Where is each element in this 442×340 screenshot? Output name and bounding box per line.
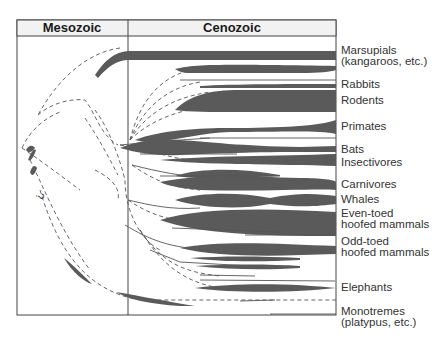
label-rabbits: Rabbits bbox=[341, 78, 380, 90]
label-carnivores: Carnivores bbox=[341, 178, 397, 190]
label-odd-toed-sub: hoofed mammals bbox=[341, 246, 429, 258]
label-bats: Bats bbox=[341, 143, 364, 155]
label-insectivores: Insectivores bbox=[341, 156, 403, 168]
header-mesozoic: Mesozoic bbox=[43, 20, 102, 35]
label-elephants: Elephants bbox=[341, 281, 392, 293]
uncertain-mark: ? bbox=[34, 193, 46, 199]
label-rodents: Rodents bbox=[341, 94, 384, 106]
taxon-labels: Marsupials (kangaroos, etc.) Rabbits Rod… bbox=[341, 44, 429, 328]
label-marsupials-sub: (kangaroos, etc.) bbox=[341, 55, 427, 67]
label-even-toed-sub: hoofed mammals bbox=[341, 218, 429, 230]
frame bbox=[17, 20, 336, 315]
label-monotremes-sub: (platypus, etc.) bbox=[341, 316, 417, 328]
label-primates: Primates bbox=[341, 120, 387, 132]
label-whales: Whales bbox=[341, 193, 380, 205]
phylogeny-diagram: Mesozoic Cenozoic ? bbox=[0, 0, 442, 340]
header-cenozoic: Cenozoic bbox=[203, 20, 261, 35]
